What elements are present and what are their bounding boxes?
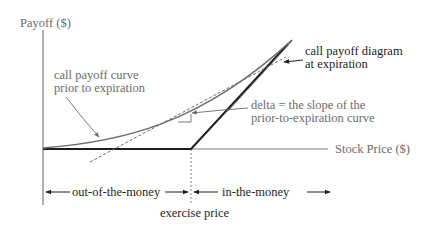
y-axis-label: Payoff ($) <box>20 16 71 30</box>
expiration-arrow <box>284 60 303 62</box>
delta-label-line2: prior-to-expiration curve <box>251 111 375 125</box>
slope-triangle <box>178 114 191 122</box>
exercise-price-label: exercise price <box>160 206 229 220</box>
delta-label-line1: delta = the slope of the <box>251 98 365 112</box>
in-the-money-label: in-the-money <box>222 185 289 199</box>
prior-curve-label-line2: prior to expiration <box>54 81 145 95</box>
prior-curve-arrow <box>66 97 99 137</box>
out-of-the-money-label: out-of-the-money <box>72 185 160 199</box>
delta-arrow <box>192 108 248 113</box>
expiration-label-line1: call payoff diagram <box>305 44 403 58</box>
x-axis-label: Stock Price ($) <box>335 142 410 156</box>
prior-curve-label-line1: call payoff curve <box>54 68 138 82</box>
expiration-payoff-line <box>43 44 288 149</box>
expiration-label-line2: at expiration <box>305 57 368 71</box>
